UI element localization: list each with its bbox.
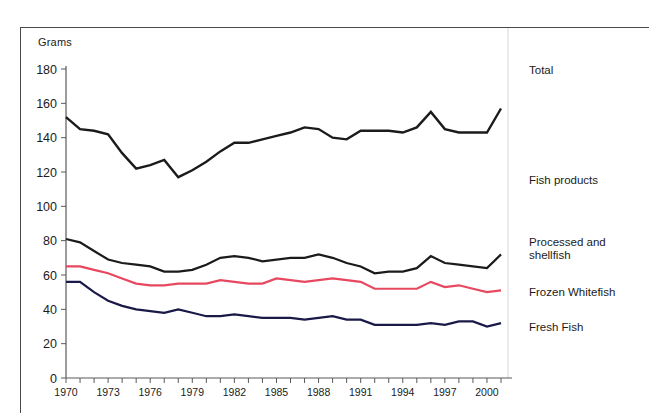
y-tick-label: 120 (36, 166, 57, 180)
y-tick-label: 40 (43, 303, 57, 317)
series-label-frozen-whitefish: Frozen Whitefish (529, 286, 615, 298)
x-tick-label: 1970 (54, 386, 78, 398)
x-tick-label: 2000 (475, 386, 499, 398)
x-tick-label: 1988 (307, 386, 331, 398)
line-chart: 0204060801001201401601801970197319761979… (0, 0, 650, 413)
x-tick-label: 1973 (96, 386, 120, 398)
series-label-processed-1: Processed and (529, 236, 606, 248)
series-label-fresh-fish: Fresh Fish (529, 321, 583, 333)
series-line-processed-and-shellfish (66, 239, 501, 273)
x-tick-label: 1994 (391, 386, 415, 398)
series-line-total (66, 108, 501, 177)
y-tick-label: 0 (50, 372, 57, 386)
series-label-total: Total (529, 64, 553, 76)
x-tick-label: 1985 (265, 386, 289, 398)
x-tick-label: 1976 (139, 386, 163, 398)
y-tick-label: 100 (36, 200, 57, 214)
y-tick-label: 80 (43, 234, 57, 248)
x-tick-label: 1979 (181, 386, 205, 398)
y-tick-label: 140 (36, 131, 57, 145)
series-line-fresh-fish (66, 282, 501, 327)
x-tick-label: 1991 (349, 386, 373, 398)
y-tick-label: 160 (36, 97, 57, 111)
x-tick-label: 1982 (223, 386, 247, 398)
y-tick-label: 180 (36, 63, 57, 77)
series-label-fish-products: Fish products (529, 174, 598, 186)
series-label-processed-2: shellfish (529, 249, 571, 261)
y-tick-label: 20 (43, 337, 57, 351)
series-line-frozen-whitefish (66, 266, 501, 292)
y-tick-label: 60 (43, 269, 57, 283)
chart-svg: 0204060801001201401601801970197319761979… (0, 0, 650, 413)
x-tick-label: 1997 (433, 386, 457, 398)
